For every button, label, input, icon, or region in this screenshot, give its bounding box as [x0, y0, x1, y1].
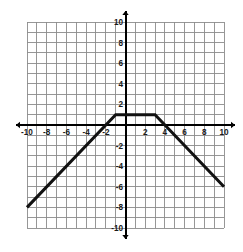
x-tick-label: -4: [82, 128, 90, 137]
y-tick-label: 10: [114, 18, 124, 27]
graph-canvas: -10-8-6-4-2246810108642-2-4-6-8-10: [0, 0, 243, 252]
x-tick-label: 6: [182, 128, 187, 137]
y-tick-label: -4: [116, 162, 124, 171]
coordinate-plane-figure: -10-8-6-4-2246810108642-2-4-6-8-10: [0, 0, 243, 252]
x-tick-label: -6: [63, 128, 71, 137]
x-axis-arrow-right: [231, 122, 235, 128]
y-axis-arrow-up: [122, 11, 128, 15]
x-tick-label: 2: [143, 128, 148, 137]
y-tick-label: 8: [118, 39, 123, 48]
x-tick-label: -10: [21, 128, 33, 137]
y-tick-label: -8: [116, 203, 124, 212]
y-tick-label: -2: [116, 142, 124, 151]
x-tick-label: -8: [43, 128, 51, 137]
x-axis-arrow-left: [16, 122, 20, 128]
axes: [16, 11, 235, 239]
y-tick-label: 6: [118, 59, 123, 68]
y-tick-label: 2: [118, 100, 123, 109]
y-tick-label: -10: [111, 224, 123, 233]
y-tick-label: 4: [118, 80, 123, 89]
x-tick-label: 8: [202, 128, 207, 137]
x-tick-label: 10: [219, 128, 229, 137]
y-axis-arrow-down: [122, 235, 128, 239]
y-tick-label: -6: [116, 183, 124, 192]
